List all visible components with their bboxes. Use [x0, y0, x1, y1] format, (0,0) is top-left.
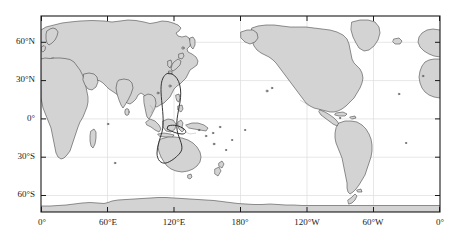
- y-tick-label-0: 0°: [2, 113, 35, 123]
- sakhalin-island: [182, 47, 184, 49]
- x-tick-label-60W: 60°W: [353, 217, 393, 227]
- x-tick-label-0E: 0°: [22, 217, 62, 227]
- x-tick-label-60E: 60°E: [88, 217, 128, 227]
- pacific-island-dot-6: [219, 126, 221, 128]
- fiji-island: [213, 143, 215, 145]
- y-tick-label-30S: 30°S: [2, 151, 35, 161]
- x-tick-label-120E: 120°E: [154, 217, 194, 227]
- pacific-island-dot-2: [339, 117, 340, 118]
- world-map-figure: 60°N 30°N 0° 30°S 60°S 0° 60°E 120°E 180…: [0, 0, 461, 248]
- sri-lanka: [125, 109, 129, 116]
- atlantic-island-2: [405, 142, 406, 143]
- x-tick-label-0W: 0°: [420, 217, 460, 227]
- hawaii-island: [266, 90, 268, 92]
- atlantic-island-1: [398, 93, 400, 95]
- y-tick-label-30N: 30°N: [2, 74, 35, 84]
- y-tick-label-60N: 60°N: [2, 36, 35, 46]
- pacific-island-dot-4: [231, 139, 232, 140]
- pacific-island-dot-8: [198, 129, 200, 131]
- canary-islands: [422, 75, 424, 77]
- x-tick-label-120W: 120°W: [287, 217, 327, 227]
- y-tick-label-60S: 60°S: [2, 189, 35, 199]
- pacific-island-dot-7: [205, 135, 207, 137]
- world-map-canvas: [0, 0, 461, 248]
- pacific-island-dot-1: [271, 87, 273, 89]
- hainan-island: [157, 92, 159, 94]
- x-tick-label-180: 180°: [220, 217, 260, 227]
- taiwan-island: [169, 85, 171, 87]
- indian-ocean-island-1: [107, 123, 109, 125]
- pacific-island-dot-5: [212, 132, 214, 134]
- indian-ocean-island-2: [114, 162, 116, 164]
- pacific-island-dot-9: [225, 149, 226, 150]
- pacific-island-dot-3: [244, 129, 245, 130]
